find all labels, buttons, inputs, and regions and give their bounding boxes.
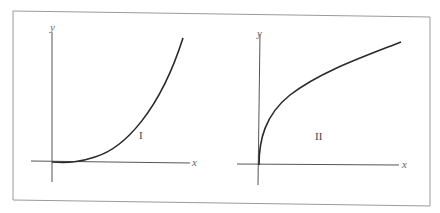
graph-II-x-label: x — [401, 158, 407, 170]
graph-II-curve — [259, 42, 401, 165]
figure: x y I x y II — [0, 0, 440, 213]
graph-II-label: II — [315, 130, 323, 142]
graph-I: x y I — [31, 21, 197, 182]
graph-II-y-label: y — [256, 27, 262, 39]
graph-II: x y II — [237, 27, 407, 185]
graph-I-y-label: y — [49, 21, 55, 33]
graph-I-x-label: x — [191, 156, 197, 168]
graph-I-label: I — [139, 129, 143, 141]
figure-frame — [13, 11, 430, 206]
graph-I-curve — [52, 38, 183, 162]
graph-II-x-axis — [237, 164, 399, 165]
